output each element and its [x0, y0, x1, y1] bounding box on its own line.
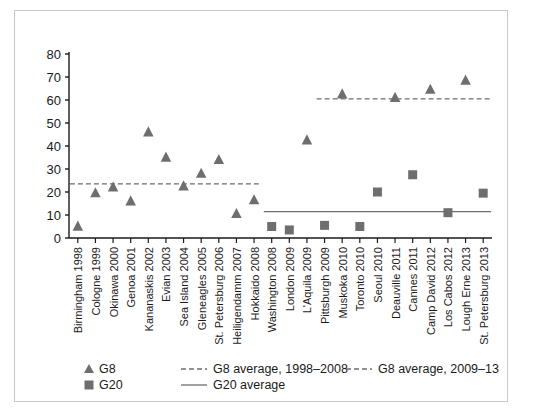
- x-tick-label: Gleneagles 2005: [196, 247, 208, 330]
- data-point-g8: [390, 92, 401, 102]
- x-tick-label: Lough Erne 2013: [460, 247, 472, 331]
- data-point-g8: [143, 126, 154, 136]
- data-point-g8: [196, 168, 207, 178]
- x-tick-label: Birmingham 1998: [72, 247, 84, 333]
- data-point-g8: [460, 75, 471, 85]
- data-point-g8: [73, 221, 84, 231]
- data-point-g8: [231, 208, 242, 218]
- x-tick-label: Toronto 2010: [354, 247, 366, 311]
- x-tick-label: Deauville 2011: [390, 247, 402, 319]
- y-tick-label: 50: [47, 116, 61, 131]
- data-point-g20: [479, 189, 488, 198]
- y-tick-label: 80: [47, 47, 61, 62]
- x-tick-label: Washington 2008: [266, 247, 278, 332]
- plot-area: 01020304050607080Birmingham 1998Cologne …: [15, 11, 509, 403]
- data-point-g8: [108, 182, 119, 192]
- data-point-g8: [161, 152, 172, 162]
- data-point-g8: [178, 180, 189, 190]
- data-point-g8: [425, 84, 436, 94]
- data-point-g20: [267, 222, 276, 231]
- data-point-g20: [408, 170, 417, 179]
- legend-label-g8-avg-2009-13: G8 average, 2009–13: [378, 362, 499, 376]
- x-tick-label: Sea Island 2004: [178, 247, 190, 327]
- legend-label-g8-avg-1998-2008: G8 average, 1998–2008: [213, 362, 348, 376]
- data-point-g8: [125, 195, 136, 205]
- data-point-g8: [214, 154, 225, 164]
- x-tick-label: Cannes 2011: [407, 247, 419, 312]
- x-tick-label: Seoul 2010: [372, 247, 384, 303]
- x-tick-label: Pittsburgh 2009: [319, 247, 331, 324]
- y-tick-label: 20: [47, 185, 61, 200]
- data-point-g8: [90, 187, 101, 197]
- legend-marker-g20: [85, 381, 94, 390]
- x-tick-label: Muskoka 2010: [337, 247, 349, 319]
- legend-label-g8: G8: [99, 362, 116, 376]
- data-point-g8: [302, 134, 313, 144]
- y-tick-label: 70: [47, 70, 61, 85]
- x-tick-label: Hokkaido 2008: [249, 247, 261, 320]
- data-point-g20: [355, 222, 364, 231]
- x-tick-label: L'Aquila 2009: [301, 247, 313, 313]
- x-tick-label: Okinawa 2000: [108, 247, 120, 317]
- legend-label-g20: G20: [99, 378, 123, 392]
- data-point-g20: [443, 208, 452, 217]
- x-tick-label: St. Petersburg 2013: [478, 247, 490, 345]
- data-point-g20: [320, 221, 329, 230]
- x-tick-label: Evian 2003: [160, 247, 172, 302]
- x-tick-label: London 2009: [284, 247, 296, 311]
- legend-marker-g8: [84, 364, 94, 373]
- y-tick-label: 60: [47, 93, 61, 108]
- y-tick-label: 0: [54, 231, 61, 246]
- y-tick-label: 30: [47, 162, 61, 177]
- x-tick-label: Los Cabos 2012: [442, 247, 454, 327]
- x-tick-label: Camp David 2012: [425, 247, 437, 335]
- x-tick-label: Kananaskis 2002: [143, 247, 155, 331]
- scatter-chart: 01020304050607080Birmingham 1998Cologne …: [15, 11, 509, 403]
- legend-label-g20-avg: G20 average: [213, 378, 285, 392]
- data-point-g20: [373, 188, 382, 197]
- data-point-g8: [337, 88, 348, 98]
- data-point-g20: [285, 225, 294, 234]
- x-tick-label: Heiligendamm 2007: [231, 247, 243, 345]
- x-tick-label: Cologne 1999: [90, 247, 102, 316]
- y-tick-label: 40: [47, 139, 61, 154]
- x-tick-label: Genoa 2001: [125, 247, 137, 308]
- data-point-g8: [249, 194, 260, 204]
- y-tick-label: 10: [47, 208, 61, 223]
- chart-figure: 01020304050607080Birmingham 1998Cologne …: [14, 10, 508, 402]
- x-tick-label: St. Petersburg 2006: [213, 247, 225, 345]
